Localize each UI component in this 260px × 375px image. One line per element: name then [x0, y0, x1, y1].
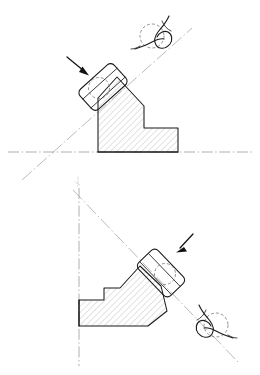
drawing-canvas — [0, 0, 260, 375]
drawing-sheet — [0, 0, 260, 375]
